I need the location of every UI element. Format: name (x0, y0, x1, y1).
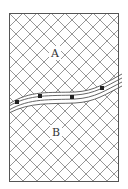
region-label-b: B (52, 126, 60, 139)
band-marker (38, 94, 42, 98)
band-marker (15, 100, 19, 104)
band-marker (70, 95, 74, 99)
region-label-a: A (50, 47, 60, 60)
band-marker (100, 86, 104, 90)
region-diagram: AB (0, 0, 128, 189)
